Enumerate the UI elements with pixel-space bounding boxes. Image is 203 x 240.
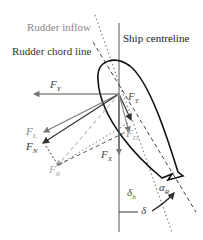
rudder-inflow-label: Rudder inflow (27, 21, 91, 33)
force-fn-label: FN (26, 140, 37, 155)
force-fd-label: FD (126, 127, 138, 142)
construction-line (58, 131, 128, 165)
rudder-chord-line (93, 42, 196, 212)
force-fx-label: FX (101, 148, 112, 163)
rudder-chord-line-label: Rudder chord line (12, 45, 91, 57)
ship-centreline-label: Ship centreline (123, 32, 189, 44)
force-ft-label: FT (128, 90, 139, 105)
angle-delta-label: δ (141, 204, 146, 216)
force-fl-label: FL (26, 125, 37, 140)
force-fy-label: FY (50, 78, 61, 93)
force-fn-arrow (43, 94, 119, 143)
force-fr-label: FR (49, 163, 60, 178)
angle-delta-h-label: δh (127, 186, 136, 201)
angle-alpha-r-label: αR (159, 181, 169, 196)
